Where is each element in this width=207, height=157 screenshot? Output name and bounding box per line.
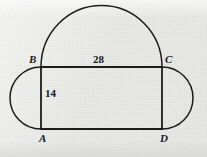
measure-label-top-side: 28 — [93, 54, 104, 65]
geometry-figure-canvas: B C A D 28 14 — [0, 0, 207, 157]
vertex-label-c: C — [165, 54, 172, 65]
figure-svg — [0, 0, 207, 157]
vertex-label-d: D — [160, 133, 168, 144]
vertex-label-a: A — [39, 133, 46, 144]
measure-label-left-side: 14 — [45, 88, 56, 99]
paper-grain-layer — [0, 0, 207, 157]
vertex-label-b: B — [29, 54, 36, 65]
